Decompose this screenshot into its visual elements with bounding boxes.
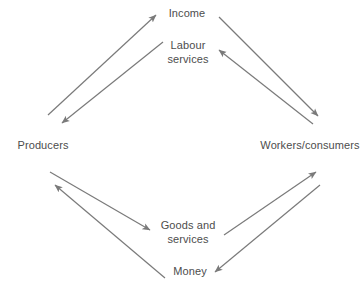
node-label-workers-consumers: Workers/consumers (260, 139, 359, 153)
flow-arrow-workers-to-labour (219, 50, 313, 124)
flow-label-goods-and-services: Goods and services (161, 219, 216, 246)
flow-arrow-goods-to-workers (224, 172, 316, 235)
node-label-producers: Producers (17, 139, 68, 153)
circular-flow-diagram: Producers Workers/consumers Income Labou… (0, 0, 362, 294)
flow-arrow-workers-to-money (215, 185, 320, 272)
flow-label-income: Income (169, 7, 206, 21)
flow-arrow-money-to-producers (55, 185, 165, 278)
flow-arrow-income-to-workers (219, 17, 318, 116)
flow-arrow-producers-to-goods (50, 172, 150, 230)
flow-arrow-income-to-producers (62, 42, 163, 123)
flow-label-money: Money (173, 265, 207, 279)
flow-arrow-producers-to-income (48, 15, 156, 115)
flow-label-labour-services: Labour services (167, 39, 208, 66)
